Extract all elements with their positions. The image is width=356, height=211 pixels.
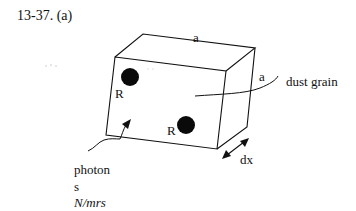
thickness-label: dx xyxy=(240,153,253,166)
edge-label-top: a xyxy=(193,31,199,44)
scan-specks xyxy=(45,64,153,69)
photon-arrowhead-icon xyxy=(122,119,131,129)
dust-grain-diagram xyxy=(0,0,356,211)
dx-arrowhead-left-icon xyxy=(222,150,231,159)
dx-arrowhead-right-icon xyxy=(240,138,249,147)
dust-grain-label: dust grain xyxy=(286,75,338,88)
dust-grain-leader-line xyxy=(195,76,278,96)
photons-label-line2: s xyxy=(74,180,79,193)
particle-lower-right xyxy=(177,116,195,134)
edge-label-side: a xyxy=(259,70,265,83)
flux-label: N/mrs xyxy=(74,196,106,209)
particle-upper-left xyxy=(121,68,139,86)
particle-label-lower: R xyxy=(167,124,176,137)
photons-label-line1: photon xyxy=(74,163,110,176)
particle-label-upper: R xyxy=(115,87,124,100)
